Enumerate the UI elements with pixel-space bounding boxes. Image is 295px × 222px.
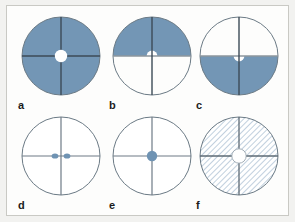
panel-label-a: a	[18, 100, 24, 111]
panel-b-diagram	[110, 14, 194, 98]
figure-frame: a b	[6, 5, 289, 216]
panel-f: f	[197, 114, 281, 198]
panel-label-f: f	[196, 200, 200, 211]
panel-e: e	[110, 114, 194, 198]
panel-d: d	[19, 114, 103, 198]
center-white-circle-a	[55, 50, 67, 62]
panel-label-b: b	[109, 100, 116, 111]
panel-label-e: e	[109, 200, 115, 211]
center-blue-dot-left-d	[52, 153, 59, 158]
center-white-circle-f	[232, 149, 246, 163]
panel-d-diagram	[19, 114, 103, 198]
panel-label-c: c	[196, 100, 202, 111]
center-blue-dot-right-d	[64, 153, 71, 158]
panel-a: a	[19, 14, 103, 98]
panel-grid: a b	[7, 6, 288, 215]
panel-a-diagram	[19, 14, 103, 98]
panel-f-diagram	[197, 114, 281, 198]
panel-c-diagram	[197, 14, 281, 98]
panel-b: b	[110, 14, 194, 98]
panel-c: c	[197, 14, 281, 98]
figure-root: a b	[0, 0, 295, 222]
center-blue-dot-e	[147, 151, 157, 161]
panel-e-diagram	[110, 114, 194, 198]
panel-label-d: d	[18, 200, 25, 211]
